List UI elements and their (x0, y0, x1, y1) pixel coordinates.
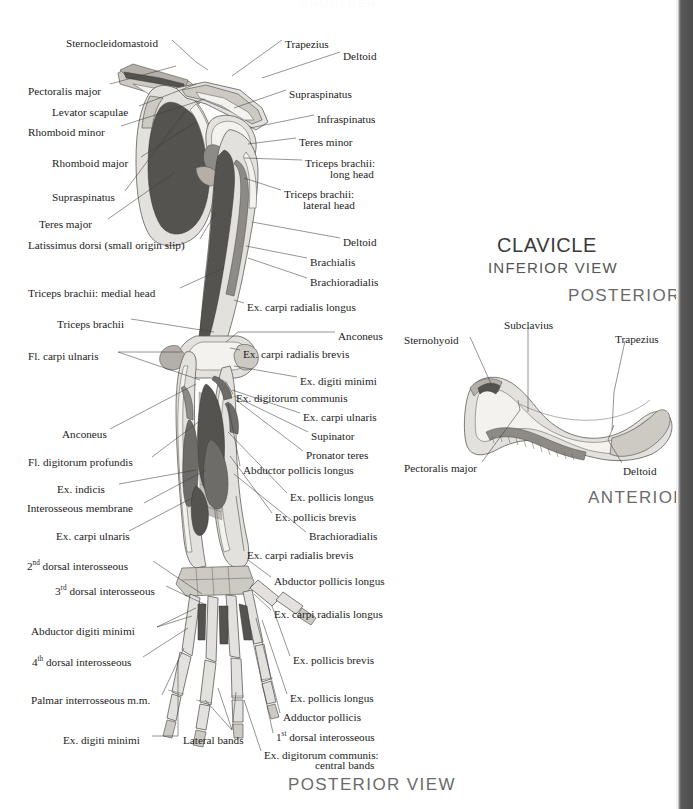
anatomy-label-left-2: Pectoralis major (28, 85, 101, 98)
clavicle-label-3: Sternohyoid (404, 334, 459, 347)
clavicle-label-2: Trapezius (615, 333, 659, 346)
anatomy-label-left-14: Ex. indicis (57, 483, 105, 496)
anatomy-label-left-22: Ex. digiti minimi (63, 734, 140, 747)
anatomy-label-right-29: Ex. pollicis longus (290, 692, 374, 705)
anatomy-label-right-17: Ex. digitorum communis (236, 392, 348, 405)
anatomy-label-right-5: Teres minor (299, 136, 353, 149)
clavicle-subtitle: INFERIOR VIEW (488, 259, 618, 276)
anatomy-page: SHOULDER (0, 0, 693, 809)
anatomy-label-right-24: Brachioradialis (309, 530, 377, 543)
anatomy-label-right-3: Supraspinatus (289, 88, 352, 101)
anatomy-label-left-7: Teres major (39, 218, 92, 231)
anatomy-label-right-11: Brachialis (310, 256, 355, 269)
anatomy-label-left-1: Sternocleidomastoid (66, 37, 158, 50)
anatomy-label-right-31: 1st dorsal interosseous (276, 731, 375, 744)
anatomy-label-right-15: Ex. carpi radialis brevis (243, 348, 349, 361)
clavicle-title: CLAVICLE (497, 234, 597, 257)
anatomy-label-left-8: Latissimus dorsi (small origin slip) (28, 239, 185, 252)
anatomy-label-right-2: Deltoid (343, 50, 377, 63)
anatomy-label-left-13: Fl. digitorum profundis (28, 456, 133, 469)
anatomy-label-right-16: Ex. digiti minimi (300, 375, 377, 388)
anatomy-label-right-21: Abductor pollicis longus (243, 464, 354, 477)
clavicle-anterior-label: ANTERIOR (588, 488, 687, 508)
anatomy-label-left-11: Fl. carpi ulnaris (28, 350, 99, 363)
anatomy-label-right-27: Ex. carpi radialis longus (274, 608, 383, 621)
anatomy-label-right-1: Trapezius (285, 38, 329, 51)
posterior-view-caption: POSTERIOR VIEW (288, 775, 456, 795)
anatomy-label-right-33: central bands (315, 759, 374, 772)
anatomy-label-right-19: Supinator (311, 430, 355, 443)
anatomy-label-right-22: Ex. pollicis longus (290, 491, 374, 504)
anatomy-label-left-5: Rhomboid major (52, 157, 128, 170)
anatomy-label-left-20: 4th dorsal interosseous (32, 656, 131, 669)
anatomy-label-left-17: 2nd dorsal interosseous (27, 560, 128, 573)
anatomy-label-right-10: Deltoid (343, 236, 377, 249)
anatomy-label-left-4: Rhomboid minor (28, 126, 105, 139)
anatomy-label-left-3: Levator scapulae (52, 106, 128, 119)
clavicle-label-5: Deltoid (623, 465, 657, 478)
page-gutter-band (678, 0, 693, 809)
anatomy-label-right-13: Ex. carpi radialis longus (247, 301, 356, 314)
anatomy-label-right-14: Anconeus (338, 330, 383, 343)
clavicle-posterior-label: POSTERIOR (568, 286, 681, 306)
anatomy-label-left-21: Palmar interrosseous m.m. (31, 694, 150, 707)
anatomy-label-right-7: long head (330, 168, 374, 181)
clavicle-inset-shape (464, 377, 672, 460)
anatomy-label-left-16: Ex. carpi ulnaris (56, 530, 130, 543)
anatomy-label-right-30: Adductor pollicis (283, 711, 361, 724)
anatomy-label-right-25: Ex. carpi radialis brevis (247, 549, 353, 562)
clavicle-label-4: Pectoralis major (404, 462, 477, 475)
carpal-bones (176, 566, 254, 596)
anatomy-label-left-18: 3rd dorsal interosseous (55, 585, 155, 598)
anatomy-label-left-10: Triceps brachii (57, 318, 124, 331)
anatomy-label-right-26: Abductor pollicis longus (274, 575, 385, 588)
anatomy-label-right-4: Infraspinatus (317, 113, 375, 126)
anatomy-label-right-23: Ex. pollicis brevis (275, 511, 356, 524)
anatomy-label-left-19: Abductor digiti minimi (31, 625, 135, 638)
anatomy-label-left-6: Supraspinatus (52, 191, 115, 204)
clavicle-label-1: Subclavius (504, 319, 553, 332)
anatomy-label-left-15: Interosseous membrane (27, 502, 133, 515)
anatomy-label-right-9: lateral head (303, 199, 355, 212)
anatomy-label-left-9: Triceps brachii: medial head (28, 287, 155, 300)
anatomy-label-right-28: Ex. pollicis brevis (293, 654, 374, 667)
anatomy-label-bottom-1: Lateral bands (183, 734, 244, 747)
anatomy-label-left-12: Anconeus (62, 428, 107, 441)
anatomy-label-right-12: Brachioradialis (310, 276, 378, 289)
anatomy-label-right-18: Ex. carpi ulnaris (303, 411, 377, 424)
anatomy-label-right-20: Pronator teres (306, 449, 368, 462)
